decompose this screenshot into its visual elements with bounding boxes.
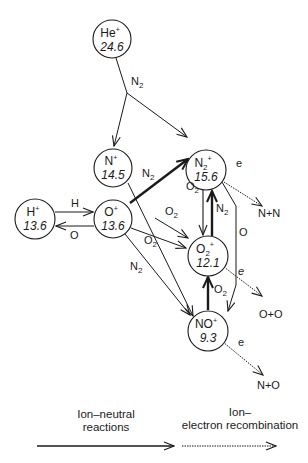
- label-o-to-h: O: [70, 229, 79, 241]
- product-o-o: O+O: [259, 308, 283, 320]
- label-h-to-o: H: [71, 197, 79, 209]
- svg-text:15.6: 15.6: [194, 170, 218, 184]
- label-e-n2: e: [236, 157, 242, 169]
- label-o-o2-upper: O2: [165, 205, 179, 220]
- legend: Ion–neutral reactions Ion– electron reco…: [37, 406, 298, 446]
- label-o2-n2: N2: [216, 202, 229, 217]
- label-o-o2-lower: O2: [144, 234, 158, 249]
- product-n-n: N+N: [258, 207, 280, 219]
- node-o2-ion: O2+ 12.1: [188, 236, 228, 276]
- node-o-ion: O+ 13.6: [94, 200, 132, 238]
- reaction-network-diagram: He+ 24.6 N+ 14.5 N2+ 15.6 H+ 13.6 O+ 13.…: [0, 0, 308, 463]
- legend-dotted-line1: Ion–: [229, 406, 252, 418]
- node-he-ion: He+ 24.6: [93, 20, 131, 58]
- arrow-o-to-o2-upper: [155, 218, 188, 238]
- label-no-o2: O2: [214, 283, 228, 298]
- arrow-o-to-n2-bold: [130, 159, 188, 203]
- node-no-ion: NO+ 9.3: [188, 311, 228, 351]
- legend-solid-line2: reactions: [83, 421, 130, 433]
- product-n-o: N+O: [257, 379, 280, 391]
- label-e-o2: e: [238, 265, 244, 277]
- arrow-he-to-n2: [127, 93, 187, 137]
- svg-text:13.6: 13.6: [23, 219, 47, 233]
- label-e-no: e: [238, 336, 244, 348]
- arrow-he-to-n: [114, 93, 127, 146]
- node-n-ion: N+ 14.5: [94, 149, 132, 187]
- label-he-n2: N2: [131, 75, 144, 90]
- svg-text:14.5: 14.5: [101, 168, 125, 182]
- label-n-n2: N2: [142, 167, 155, 182]
- arrow-n2-recombination: [224, 182, 262, 206]
- node-h-ion: H+ 13.6: [15, 199, 55, 239]
- svg-text:13.6: 13.6: [101, 219, 125, 233]
- legend-dotted-line2: electron recombination: [182, 419, 298, 431]
- arrow-he-to-junction: [116, 58, 127, 93]
- legend-solid-line1: Ion–neutral: [77, 408, 135, 420]
- label-n2-o: O: [239, 226, 248, 238]
- label-o-n2: N2: [130, 260, 143, 275]
- svg-text:24.6: 24.6: [99, 40, 124, 54]
- svg-text:9.3: 9.3: [200, 331, 217, 345]
- svg-text:12.1: 12.1: [196, 256, 219, 270]
